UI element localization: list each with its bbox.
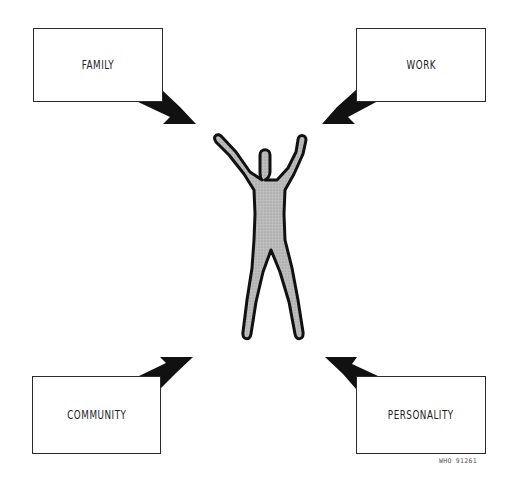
- personality-label: PERSONALITY: [388, 408, 454, 422]
- work-box: WORK: [356, 28, 486, 102]
- work-label: WORK: [406, 58, 436, 72]
- figure-code: WHO 91261: [439, 457, 477, 465]
- community-label: COMMUNITY: [67, 408, 126, 422]
- personality-box: PERSONALITY: [356, 376, 486, 454]
- family-label: FAMILY: [82, 58, 114, 72]
- family-box: FAMILY: [33, 28, 163, 102]
- community-box: COMMUNITY: [32, 376, 161, 454]
- person-figure-icon: [211, 134, 306, 340]
